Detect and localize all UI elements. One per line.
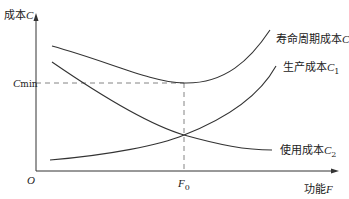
curve-c-label: 寿命周期成本C bbox=[276, 34, 349, 45]
origin-label: O bbox=[27, 175, 35, 186]
cmin-label: Cmin bbox=[13, 78, 38, 89]
curve-c2-label: 使用成本C2 bbox=[280, 145, 336, 159]
f0-label: F0 bbox=[178, 178, 190, 192]
x-axis-label: 功能F bbox=[304, 184, 333, 195]
y-axis-arrow-icon bbox=[34, 13, 39, 21]
y-axis-label: 成本C bbox=[4, 10, 33, 21]
curve-c1-label: 生产成本C1 bbox=[283, 62, 339, 76]
x-axis-arrow-icon bbox=[331, 169, 339, 174]
curve-lifecycle-cost bbox=[52, 30, 270, 83]
cost-function-diagram bbox=[0, 0, 349, 199]
